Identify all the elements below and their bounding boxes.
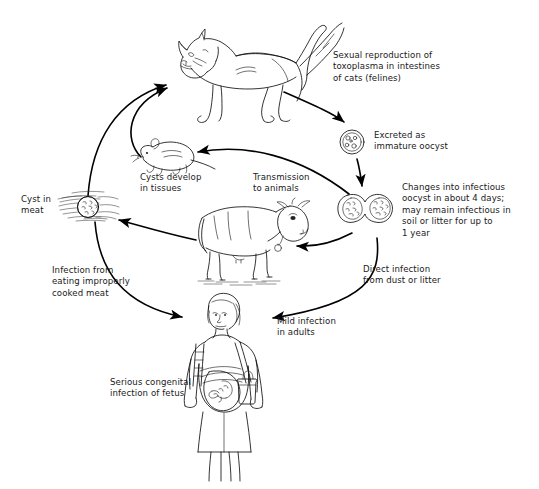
- label-cyst-in-meat: Cyst in meat: [21, 194, 51, 217]
- label-changes-infectious: Changes into infectious oocyst in about …: [402, 182, 511, 239]
- label-direct-infection: Direct infection from dust or litter: [363, 264, 441, 287]
- arrow-immature-to-sporulated: [357, 159, 362, 186]
- pregnant-woman-illustration: [184, 293, 263, 481]
- cycle-arrows: [88, 85, 378, 318]
- mouse-illustration: [131, 139, 215, 175]
- label-mild-infection: Mild infection in adults: [277, 316, 336, 339]
- arrow-oocyst-to-woman: [273, 238, 378, 318]
- label-transmission-to-animals: Transmission to animals: [253, 172, 310, 195]
- label-excreted-oocyst: Excreted as immature oocyst: [374, 130, 448, 153]
- diagram-canvas: [0, 0, 539, 489]
- immature-oocyst-illustration: [340, 130, 364, 154]
- label-sexual-reproduction: Sexual reproduction of toxoplasma in int…: [333, 50, 440, 84]
- sporulated-oocyst-illustration: [338, 194, 393, 222]
- cow-illustration: [198, 198, 310, 285]
- toxoplasmosis-lifecycle-diagram: Sexual reproduction of toxoplasma in int…: [0, 0, 539, 489]
- label-infection-from-meat: Infection from eating improperly cooked …: [52, 265, 130, 299]
- label-congenital-infection: Serious congenital infection of fetus: [110, 377, 191, 400]
- meat-cyst-illustration: [58, 191, 119, 221]
- arrow-cat-to-oocyst: [284, 92, 344, 122]
- arrow-cow-to-cyst: [119, 220, 196, 240]
- label-cysts-develop: Cysts develop in tissues: [140, 172, 201, 195]
